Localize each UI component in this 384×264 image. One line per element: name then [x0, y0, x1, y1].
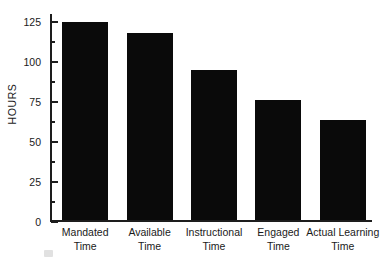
x-axis-category-labels: MandatedTimeAvailableTimeInstructionalTi…	[50, 226, 372, 260]
bar[interactable]	[191, 70, 237, 221]
x-category-label: Actual LearningTime	[300, 226, 384, 253]
x-category-label-line2: Time	[300, 240, 384, 254]
y-tick-label: 0	[7, 216, 41, 228]
y-tick-label: 75	[7, 96, 41, 108]
x-axis-line	[50, 220, 372, 222]
y-tick-label: 125	[7, 16, 41, 28]
plot-area: 0255075100125	[50, 14, 372, 222]
scan-artifact	[44, 250, 53, 257]
y-tick-label: 50	[7, 136, 41, 148]
y-tick-label: 25	[7, 176, 41, 188]
y-tick-major	[51, 221, 58, 222]
x-category-label-line1: Actual Learning	[300, 226, 384, 240]
bar[interactable]	[127, 33, 173, 220]
bar-series	[50, 14, 372, 220]
y-tick-label: 100	[7, 56, 41, 68]
bar[interactable]	[62, 22, 108, 220]
bar[interactable]	[255, 100, 301, 221]
bar[interactable]	[320, 120, 366, 220]
